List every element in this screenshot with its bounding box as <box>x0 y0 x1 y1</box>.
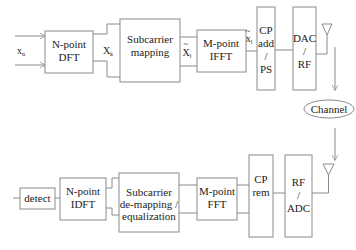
rx-antenna-icon <box>312 164 334 193</box>
tilde-mark: ~ <box>184 39 189 49</box>
block-label: Subcarrier <box>127 33 173 45</box>
block-label: DAC <box>293 32 316 44</box>
channel-label: Channel <box>311 103 348 115</box>
block-label: ADC <box>287 202 310 214</box>
block-label: rem <box>252 186 270 198</box>
wire-dft-to-mapping-top <box>93 24 120 34</box>
block-label: N-point <box>52 38 86 50</box>
block-label: DFT <box>59 51 80 63</box>
wire-demapping-to-idft-bottom <box>106 208 119 215</box>
block-label: PS <box>260 63 272 75</box>
block-label: M-point <box>199 185 235 197</box>
n-point-idft-block: N-point IDFT <box>60 178 106 220</box>
block-label: CP <box>259 24 272 36</box>
block-label: add <box>258 37 274 49</box>
dac-rf-block: DAC / RF <box>293 7 316 90</box>
block-label: equalization <box>122 210 176 222</box>
rf-adc-block: RF / ADC <box>285 155 312 237</box>
block-label: de-mapping / <box>120 198 179 210</box>
cp-rem-block: CP rem <box>249 155 273 237</box>
wire-demapping-to-idft-top <box>106 178 119 188</box>
tilde-mark: ~ <box>246 26 251 36</box>
block-label: detect <box>24 192 50 204</box>
block-label: RF <box>292 176 305 188</box>
signal-Xk-label: Xk <box>103 45 113 57</box>
input-signal-label: xn <box>17 45 25 57</box>
block-label: IFFT <box>210 50 233 62</box>
subcarrier-mapping-block: Subcarrier mapping <box>120 19 180 82</box>
n-point-dft-block: N-point DFT <box>45 31 93 73</box>
block-label: CP <box>254 173 267 185</box>
block-label: mapping <box>131 46 170 58</box>
detect-block: detect <box>20 188 55 209</box>
cp-add-ps-block: CP add / PS <box>257 7 275 90</box>
block-label: M-point <box>203 37 239 49</box>
block-label: N-point <box>66 185 100 197</box>
block-label: Subcarrier <box>126 186 172 198</box>
m-point-fft-block: M-point FFT <box>197 178 237 220</box>
diagram-canvas: xn N-point DFT Xk Subcarrier mapping Xl … <box>0 0 356 250</box>
subcarrier-demapping-block: Subcarrier de-mapping / equalization <box>119 173 179 232</box>
block-label: IDFT <box>71 198 96 210</box>
tx-antenna-icon <box>316 24 332 54</box>
wire-dft-to-mapping-bottom <box>93 61 120 77</box>
channel-ellipse: Channel <box>304 100 354 118</box>
block-label: FFT <box>208 198 227 210</box>
m-point-ifft-block: M-point IFFT <box>197 30 246 72</box>
block-label: RF <box>298 58 311 70</box>
